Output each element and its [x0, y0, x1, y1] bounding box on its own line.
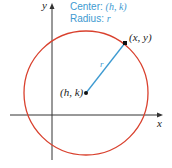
center-point	[84, 91, 88, 95]
legend: Center: (h, k) Radius: r	[70, 1, 127, 25]
circle-point-label: (x, y)	[129, 31, 152, 43]
radius-segment	[86, 43, 125, 93]
legend-center: Center: (h, k)	[70, 1, 127, 13]
circle-diagram: Center: (h, k) Radius: r y x (h, k) (x, …	[0, 0, 172, 168]
y-axis-label: y	[42, 0, 47, 11]
legend-radius: Radius: r	[70, 13, 127, 25]
coordinate-plane	[0, 0, 172, 168]
x-axis-label: x	[157, 117, 162, 129]
radius-label: r	[100, 59, 104, 69]
y-axis-arrow-icon	[50, 3, 55, 9]
center-point-label: (h, k)	[60, 86, 83, 98]
circle-point	[123, 41, 127, 45]
